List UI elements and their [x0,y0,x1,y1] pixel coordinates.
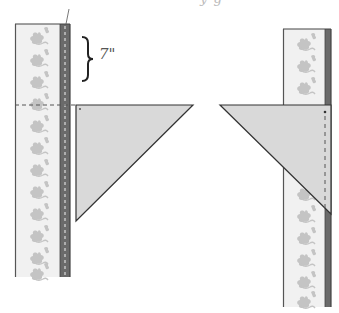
leader-line [66,9,69,24]
left-triangle [76,105,193,221]
left-corner-dot [79,108,81,110]
right-corner-dot [324,111,327,114]
measurement-label: 7" [99,45,115,63]
left-binding-strip [15,24,70,280]
right-triangle [220,105,331,214]
binding-diagram [0,0,339,313]
left-dark-band [60,24,70,277]
measurement-brace [82,37,93,81]
